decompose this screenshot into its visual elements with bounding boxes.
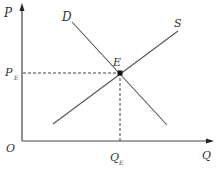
equilibrium-quantity-label: Q E bbox=[110, 151, 124, 166]
x-axis bbox=[22, 139, 214, 144]
supply-curve bbox=[53, 31, 178, 124]
equilibrium-label: E bbox=[112, 56, 121, 69]
svg-text:Q: Q bbox=[110, 151, 119, 164]
x-axis-label: Q bbox=[202, 149, 211, 162]
origin-label: O bbox=[6, 142, 15, 155]
supply-demand-diagram: P O Q D S E P E Q E bbox=[0, 0, 218, 174]
y-axis bbox=[20, 3, 25, 141]
svg-text:P: P bbox=[4, 66, 13, 79]
x-axis-arrow-icon bbox=[206, 139, 214, 144]
equilibrium-point bbox=[118, 71, 123, 76]
y-axis-label: P bbox=[3, 6, 13, 20]
equilibrium-price-label: P E bbox=[4, 66, 19, 81]
y-axis-arrow-icon bbox=[20, 3, 25, 11]
svg-text:E: E bbox=[13, 74, 19, 81]
supply-label: S bbox=[174, 17, 182, 30]
demand-label: D bbox=[61, 10, 72, 24]
svg-text:E: E bbox=[118, 159, 124, 166]
